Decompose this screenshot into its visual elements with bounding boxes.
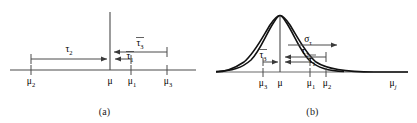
- axis-label-mu-2: μ2: [323, 78, 331, 90]
- panel-a-caption: (a): [0, 106, 209, 117]
- axis-label-mu-1: μ1: [307, 78, 315, 90]
- label-tau-1: τ1: [126, 51, 134, 63]
- svg-text:μ: μ: [107, 76, 112, 86]
- axis-label-mu: μ: [277, 78, 282, 88]
- label-tau-2: τ2: [65, 44, 72, 56]
- label-tau-3: τ3: [136, 38, 144, 50]
- figure-container: τ2 τ3 τ1 μ2 μ μ1 μ3 (a): [0, 0, 417, 123]
- axis-label-mu-1: μ1: [128, 76, 136, 88]
- svg-text:μj: μj: [390, 78, 397, 90]
- axis-label-mu-3: μ3: [259, 78, 267, 90]
- axis-label-mu: μ: [107, 76, 112, 86]
- svg-text:μ1: μ1: [307, 78, 315, 90]
- mu-j-axis-label: μj: [390, 78, 397, 90]
- gaussian-curve-right: [280, 16, 408, 73]
- panel-b-graphic: στ τ2 τ3 τ1 μ3 μ μ1: [208, 0, 417, 123]
- svg-text:μ: μ: [277, 78, 282, 88]
- axis-label-mu-3: μ3: [164, 76, 172, 88]
- svg-text:τ3: τ3: [136, 38, 143, 50]
- svg-text:μ1: μ1: [128, 76, 136, 88]
- svg-text:μ2: μ2: [27, 76, 35, 88]
- label-sigma-tau: στ: [304, 34, 312, 46]
- gaussian-curve-left: [216, 16, 280, 73]
- panel-a: τ2 τ3 τ1 μ2 μ μ1 μ3 (a): [0, 0, 209, 123]
- svg-text:μ3: μ3: [164, 76, 172, 88]
- panel-a-graphic: τ2 τ3 τ1 μ2 μ μ1 μ3: [0, 0, 209, 123]
- panel-b: στ τ2 τ3 τ1 μ3 μ μ1: [208, 0, 417, 123]
- label-tau-3: τ3: [259, 50, 267, 62]
- svg-text:στ: στ: [304, 34, 312, 46]
- svg-text:τ2: τ2: [65, 44, 72, 56]
- axis-label-mu-2: μ2: [27, 76, 35, 88]
- svg-text:τ1: τ1: [126, 51, 133, 63]
- panel-b-caption: (b): [208, 106, 417, 117]
- svg-text:μ2: μ2: [323, 78, 331, 90]
- svg-text:τ3: τ3: [259, 50, 266, 62]
- svg-text:μ3: μ3: [259, 78, 267, 90]
